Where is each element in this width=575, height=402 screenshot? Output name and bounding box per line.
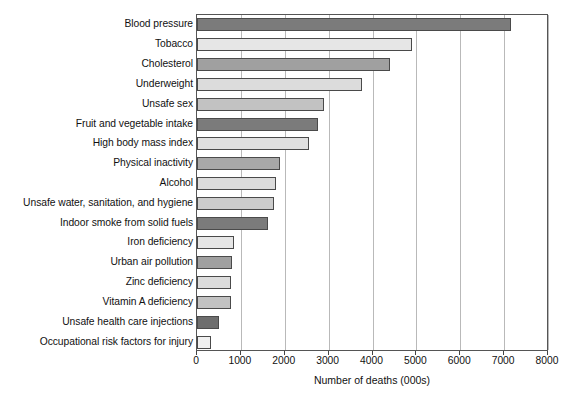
category-label: Unsafe health care injections: [0, 316, 193, 327]
category-label: Cholesterol: [0, 58, 193, 69]
bar: [197, 276, 231, 289]
x-tick-label: 7000: [492, 355, 515, 367]
category-label: Indoor smoke from solid fuels: [0, 217, 193, 228]
bar: [197, 197, 274, 210]
bar: [197, 78, 362, 91]
x-tick-label: 6000: [448, 355, 471, 367]
bar: [197, 177, 276, 190]
category-label: Urban air pollution: [0, 256, 193, 267]
bar: [197, 18, 511, 31]
category-label: Physical inactivity: [0, 157, 193, 168]
bar: [197, 236, 234, 249]
category-label: Alcohol: [0, 177, 193, 188]
x-axis-title: Number of deaths (000s): [196, 374, 548, 386]
bar: [197, 157, 280, 170]
category-label: Occupational risk factors for injury: [0, 336, 193, 347]
bar: [197, 118, 318, 131]
x-tick-label: 5000: [404, 355, 427, 367]
gridline: [548, 15, 549, 350]
bar-chart-figure: Blood pressureTobaccoCholesterolUnderwei…: [0, 0, 575, 402]
bar: [197, 58, 390, 71]
x-tick-label: 3000: [316, 355, 339, 367]
x-tick-label: 4000: [360, 355, 383, 367]
bar: [197, 137, 309, 150]
category-label: Tobacco: [0, 38, 193, 49]
x-tick-label: 1000: [228, 355, 251, 367]
bar: [197, 296, 231, 309]
plot-area: [196, 14, 548, 351]
x-tick-label: 0: [193, 355, 199, 367]
bar: [197, 256, 232, 269]
bar: [197, 336, 211, 349]
bar: [197, 316, 219, 329]
category-label: Unsafe water, sanitation, and hygiene: [0, 197, 193, 208]
category-label: Underweight: [0, 78, 193, 89]
category-label: Zinc deficiency: [0, 276, 193, 287]
x-axis-ticks: 010002000300040005000600070008000: [196, 351, 548, 367]
category-label: Vitamin A deficiency: [0, 296, 193, 307]
bar: [197, 38, 412, 51]
bar: [197, 217, 268, 230]
category-label: Fruit and vegetable intake: [0, 118, 193, 129]
category-label: Unsafe sex: [0, 98, 193, 109]
bar: [197, 98, 324, 111]
x-tick-label: 2000: [272, 355, 295, 367]
category-label: Iron deficiency: [0, 236, 193, 247]
category-label: High body mass index: [0, 137, 193, 148]
x-tick-label: 8000: [536, 355, 559, 367]
category-axis: Blood pressureTobaccoCholesterolUnderwei…: [0, 14, 193, 351]
bars-layer: [197, 15, 547, 350]
category-label: Blood pressure: [0, 18, 193, 29]
